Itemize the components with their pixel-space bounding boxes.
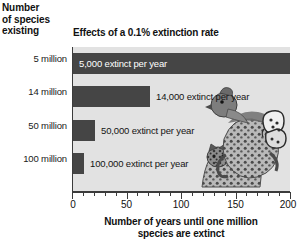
plot-area: 5,000 extinct per year 14,000 extinct pe… — [72, 47, 290, 191]
x-tick-30 — [105, 192, 106, 196]
bar-label-1: 14,000 extinct per year — [156, 86, 249, 107]
bar-14-million[interactable] — [73, 86, 150, 107]
x-tick-120 — [203, 192, 204, 196]
y-axis-title-line-2: of species — [2, 14, 70, 26]
x-tick-0 — [72, 192, 73, 199]
bar-label-3: 100,000 extinct per year — [90, 153, 188, 174]
x-axis-title: Number of years until one million specie… — [72, 216, 290, 240]
x-axis-title-line-1: Number of years until one million — [72, 216, 290, 228]
x-tick-140 — [225, 192, 226, 196]
bar-50-million[interactable] — [73, 120, 95, 141]
y-axis-title: Number of species existing — [2, 2, 70, 37]
x-tick-200 — [290, 192, 291, 199]
bar-label-0: 5,000 extinct per year — [79, 53, 167, 74]
y-tick-label-0: 5 million — [3, 53, 67, 64]
x-tick-label-0: 0 — [70, 199, 76, 210]
x-tick-40 — [116, 192, 117, 196]
x-tick-label-200: 200 — [280, 199, 297, 210]
y-tick-label-3: 100 million — [3, 153, 67, 164]
x-tick-50 — [127, 192, 128, 199]
x-axis-title-line-2: species are extinct — [72, 228, 290, 240]
x-tick-160 — [246, 192, 247, 196]
chart-title: Effects of a 0.1% extinction rate — [73, 27, 219, 38]
x-tick-90 — [170, 192, 171, 196]
bar-100-million[interactable] — [73, 153, 84, 174]
x-tick-80 — [159, 192, 160, 196]
x-tick-110 — [192, 192, 193, 196]
x-tick-10 — [83, 192, 84, 196]
x-tick-70 — [148, 192, 149, 196]
x-tick-190 — [279, 192, 280, 196]
bar-label-2: 50,000 extinct per year — [101, 120, 194, 141]
x-tick-label-150: 150 — [227, 199, 244, 210]
y-tick-label-2: 50 million — [3, 120, 67, 131]
x-tick-label-50: 50 — [121, 199, 132, 210]
x-tick-170 — [257, 192, 258, 196]
x-tick-20 — [94, 192, 95, 196]
x-tick-180 — [268, 192, 269, 196]
x-tick-60 — [137, 192, 138, 196]
x-tick-130 — [214, 192, 215, 196]
x-tick-label-100: 100 — [173, 199, 190, 210]
y-tick-label-1: 14 million — [3, 86, 67, 97]
y-axis-title-line-3: existing — [2, 25, 70, 37]
x-tick-100 — [181, 192, 182, 199]
y-axis-title-line-1: Number — [2, 2, 70, 14]
x-tick-150 — [236, 192, 237, 199]
